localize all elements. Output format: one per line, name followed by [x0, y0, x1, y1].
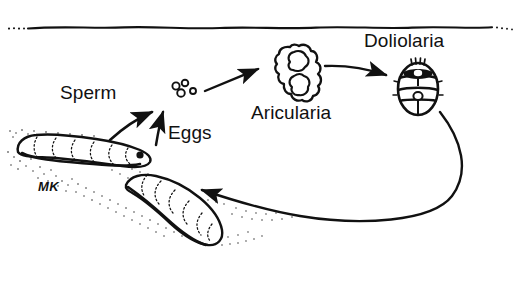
eggs-arrow	[156, 112, 163, 145]
egg-cluster	[172, 80, 196, 97]
adult-sea-cucumber-upper	[18, 134, 151, 167]
auricularia-larva	[275, 45, 321, 102]
label-sperm: Sperm	[60, 83, 116, 102]
label-madreporite: MK	[38, 180, 59, 193]
label-eggs: Eggs	[168, 123, 212, 142]
label-doliolaria: Doliolaria	[364, 31, 444, 50]
adult-sea-cucumber-lower	[126, 175, 222, 245]
sperm-arrow	[110, 112, 152, 140]
doliolaria-larva	[393, 58, 443, 115]
auricularia-to-doliolaria-arrow	[325, 66, 386, 75]
eggs-to-auricularia-arrow	[205, 69, 258, 91]
label-auricularia: Aricularia	[251, 103, 331, 122]
life-cycle-diagram: Sperm Eggs Aricularia Doliolaria MK	[0, 0, 518, 282]
doliolaria-to-adult-arrow	[202, 112, 462, 221]
